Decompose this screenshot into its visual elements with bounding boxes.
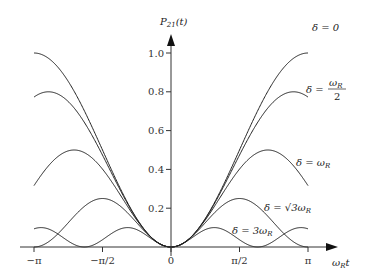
x-tick-label: −π/2 <box>90 255 115 266</box>
x-tick-label: π/2 <box>231 255 247 266</box>
y-tick-label: 0.2 <box>148 203 164 214</box>
label-delta-0: δ = 0 <box>312 22 340 33</box>
x-tick-label: −π <box>27 255 42 266</box>
y-tick-label: 1.0 <box>148 48 164 59</box>
x-tick-label: π <box>305 255 312 266</box>
chart: −π−π/20π/2π0.20.40.60.81.0 P21(t) ωRt δ … <box>0 0 371 278</box>
label-delta-half: δ = <box>306 84 324 95</box>
label-delta-sqrt3: δ = √3ωR <box>264 202 312 215</box>
label-delta-half-num: ωR <box>329 77 343 90</box>
y-axis-label: P21(t) <box>159 16 188 29</box>
x-axis-arrow-icon <box>326 243 338 251</box>
y-axis-arrow-icon <box>167 34 175 46</box>
label-delta-omega: δ = ωR <box>296 157 331 170</box>
x-tick-label: 0 <box>168 255 174 266</box>
label-delta-half-den: 2 <box>334 91 340 102</box>
x-axis-label: ωRt <box>332 257 350 270</box>
y-tick-label: 0.4 <box>148 164 164 175</box>
y-tick-label: 0.8 <box>148 86 164 97</box>
y-tick-label: 0.6 <box>148 125 164 136</box>
label-delta-3: δ = 3ωR <box>232 225 273 238</box>
